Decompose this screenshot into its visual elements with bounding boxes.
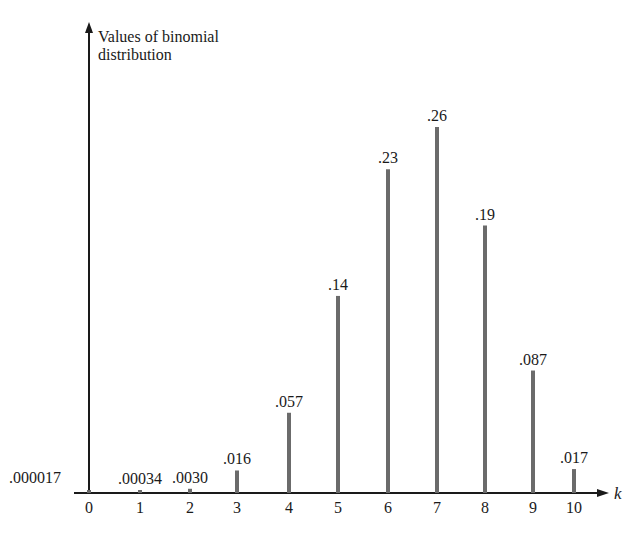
x-axis-arrow-icon bbox=[597, 489, 609, 497]
y-axis-label-line2: distribution bbox=[98, 46, 172, 63]
value-label-k-0: .000017 bbox=[9, 469, 61, 486]
x-tick-label-5: 5 bbox=[334, 499, 342, 516]
x-tick-label-6: 6 bbox=[384, 499, 392, 516]
x-axis-label: k bbox=[614, 484, 622, 503]
x-tick-label-0: 0 bbox=[85, 499, 93, 516]
x-tick-label-4: 4 bbox=[285, 499, 293, 516]
value-label-k-2: .0030 bbox=[172, 469, 208, 486]
value-label-k-7: .26 bbox=[427, 107, 447, 124]
value-label-k-8: .19 bbox=[475, 206, 495, 223]
x-tick-label-9: 9 bbox=[529, 499, 537, 516]
value-label-k-3: .016 bbox=[223, 450, 251, 467]
y-axis-arrow-icon bbox=[85, 22, 93, 33]
value-label-k-10: .017 bbox=[560, 449, 588, 466]
x-tick-label-8: 8 bbox=[481, 499, 489, 516]
x-tick-label-3: 3 bbox=[233, 499, 241, 516]
binomial-distribution-chart: Values of binomial distribution k .00001… bbox=[0, 0, 643, 536]
x-tick-label-1: 1 bbox=[136, 499, 144, 516]
bars-group bbox=[89, 127, 574, 493]
value-labels-group: .000017.00034.0030.016.057.14.23.26.19.0… bbox=[9, 107, 588, 487]
tick-labels-group: 012345678910 bbox=[85, 499, 582, 516]
x-tick-label-10: 10 bbox=[566, 499, 582, 516]
x-tick-label-7: 7 bbox=[433, 499, 441, 516]
value-label-k-4: .057 bbox=[275, 393, 303, 410]
value-label-k-6: .23 bbox=[378, 149, 398, 166]
y-axis-label-line1: Values of binomial bbox=[98, 28, 219, 45]
x-tick-label-2: 2 bbox=[186, 499, 194, 516]
value-label-k-1: .00034 bbox=[118, 470, 162, 487]
value-label-k-5: .14 bbox=[328, 276, 348, 293]
value-label-k-9: .087 bbox=[519, 351, 547, 368]
